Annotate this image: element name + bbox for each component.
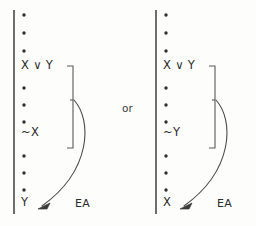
ellipsis-dot bbox=[164, 86, 167, 89]
ellipsis-dot bbox=[22, 120, 25, 123]
ellipsis-dot bbox=[22, 13, 25, 16]
left-inference-arrow-curve bbox=[42, 100, 85, 206]
ellipsis-dot bbox=[164, 31, 167, 34]
right-premise-bracket bbox=[209, 66, 215, 148]
left-premise-bracket bbox=[67, 66, 73, 148]
left-ellipsis-dots bbox=[22, 13, 25, 191]
right-ellipsis-dots bbox=[164, 13, 167, 191]
right-rule-label-ea: EA bbox=[217, 198, 232, 209]
right-disjunction-formula: X ∨ Y bbox=[163, 60, 195, 72]
ellipsis-dot bbox=[22, 154, 25, 157]
left-conclusion-formula: Y bbox=[21, 197, 28, 209]
ellipsis-dot bbox=[164, 171, 167, 174]
ellipsis-dot bbox=[164, 13, 167, 16]
ellipsis-dot bbox=[164, 103, 167, 106]
ellipsis-dot bbox=[22, 188, 25, 191]
ellipsis-dot bbox=[22, 31, 25, 34]
right-derivation-group bbox=[156, 10, 227, 214]
ellipsis-dot bbox=[164, 188, 167, 191]
proof-diagram-canvas: X ∨ Y ~X Y EA or X ∨ Y ~Y X EA bbox=[0, 0, 256, 226]
ellipsis-dot bbox=[22, 103, 25, 106]
or-separator-label: or bbox=[122, 103, 133, 114]
ellipsis-dot bbox=[22, 86, 25, 89]
left-disjunction-formula: X ∨ Y bbox=[21, 60, 53, 72]
left-negation-formula: ~X bbox=[21, 127, 39, 139]
ellipsis-dot bbox=[164, 154, 167, 157]
left-rule-label-ea: EA bbox=[75, 198, 90, 209]
right-inference-arrow-curve bbox=[184, 100, 227, 206]
ellipsis-dot bbox=[164, 49, 167, 52]
ellipsis-dot bbox=[22, 171, 25, 174]
left-derivation-group bbox=[14, 10, 85, 214]
right-conclusion-formula: X bbox=[163, 197, 171, 209]
ellipsis-dot bbox=[22, 49, 25, 52]
right-negation-formula: ~Y bbox=[163, 127, 180, 139]
ellipsis-dot bbox=[164, 120, 167, 123]
